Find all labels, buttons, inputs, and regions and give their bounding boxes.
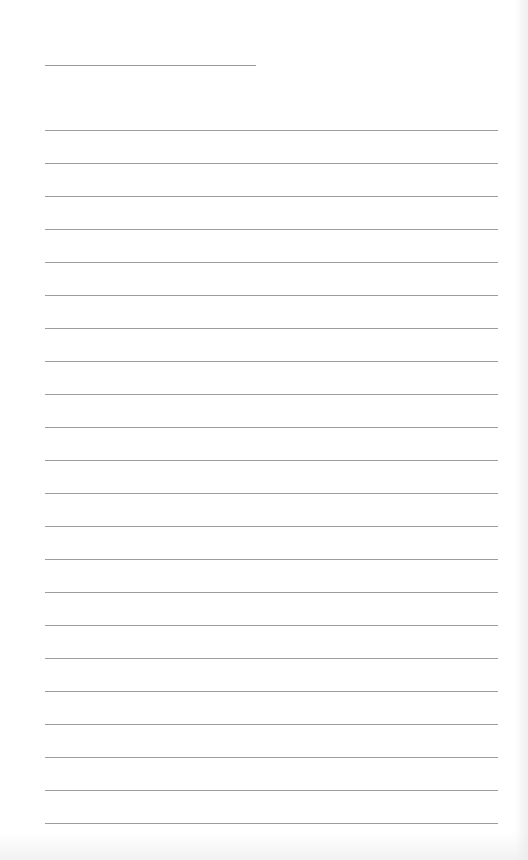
- ruled-line: [45, 691, 498, 692]
- ruled-line: [45, 262, 498, 263]
- ruled-line: [45, 757, 498, 758]
- ruled-line: [45, 658, 498, 659]
- ruled-line: [45, 295, 498, 296]
- title-underline: [45, 65, 256, 66]
- notepad-page: [0, 0, 528, 860]
- ruled-line: [45, 823, 498, 824]
- ruled-line: [45, 724, 498, 725]
- ruled-line: [45, 460, 498, 461]
- ruled-line: [45, 427, 498, 428]
- ruled-line: [45, 394, 498, 395]
- ruled-line: [45, 229, 498, 230]
- ruled-line: [45, 592, 498, 593]
- ruled-line: [45, 196, 498, 197]
- ruled-line: [45, 559, 498, 560]
- ruled-line: [45, 625, 498, 626]
- ruled-line: [45, 130, 498, 131]
- ruled-line: [45, 328, 498, 329]
- ruled-line: [45, 361, 498, 362]
- ruled-line: [45, 163, 498, 164]
- ruled-line: [45, 526, 498, 527]
- ruled-line: [45, 790, 498, 791]
- ruled-line: [45, 493, 498, 494]
- paper-edge-shadow: [0, 832, 528, 860]
